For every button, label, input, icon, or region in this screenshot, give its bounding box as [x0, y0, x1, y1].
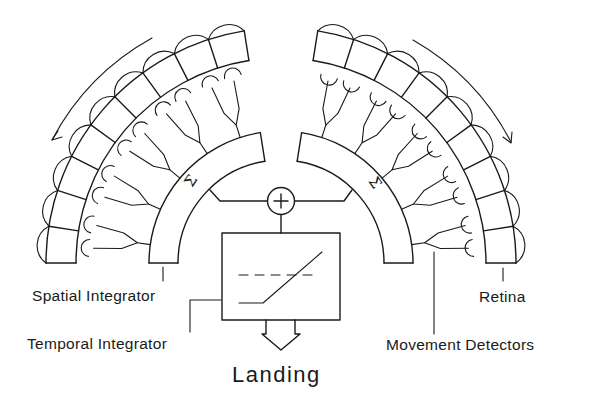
summation-symbol-left: Σ — [180, 171, 201, 190]
movement-detectors-right — [321, 74, 474, 256]
label-retina: Retina — [479, 288, 526, 306]
adder-node — [268, 188, 295, 215]
temporal-integrator-box — [222, 233, 340, 320]
leader-temporal-integrator — [190, 300, 221, 332]
retina-right — [313, 25, 525, 263]
label-landing: Landing — [232, 362, 321, 388]
landing-output-arrow — [262, 320, 300, 350]
summation-symbol-right: Σ — [365, 173, 386, 192]
wire-right-to-adder — [295, 190, 352, 201]
spatial-integrator-left — [149, 133, 265, 263]
response-ramp — [239, 252, 322, 303]
motion-arrow-right — [413, 40, 512, 143]
label-temporal-integrator: Temporal Integrator — [27, 335, 167, 353]
label-spatial-integrator: Spatial Integrator — [32, 287, 155, 305]
wire-left-to-adder — [210, 190, 267, 201]
label-movement-detectors: Movement Detectors — [386, 336, 534, 354]
spatial-integrator-right — [297, 133, 413, 263]
retina-left — [37, 25, 249, 263]
motion-arrow-left — [52, 38, 152, 140]
